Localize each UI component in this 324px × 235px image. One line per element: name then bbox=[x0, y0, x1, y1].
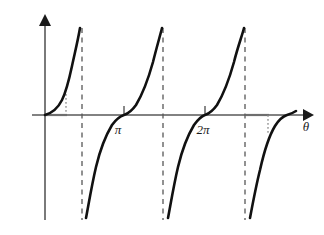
tick-label-2pi: 2π bbox=[196, 122, 210, 137]
theta-axis-label: θ bbox=[303, 119, 310, 134]
tan-branch-0 bbox=[45, 28, 80, 115]
tan-branch-3 bbox=[250, 111, 296, 218]
tangent-function-figure: π 2π θ bbox=[0, 0, 324, 235]
theta-axis bbox=[32, 109, 314, 121]
asymptote-group bbox=[82, 28, 245, 220]
right-guides bbox=[246, 115, 269, 134]
vertical-axis bbox=[39, 14, 51, 220]
tick-label-pi: π bbox=[115, 122, 122, 137]
graph-canvas: π 2π θ bbox=[0, 0, 324, 235]
vertical-axis-arrowhead bbox=[39, 14, 51, 26]
tan-branch-1 bbox=[86, 28, 162, 218]
